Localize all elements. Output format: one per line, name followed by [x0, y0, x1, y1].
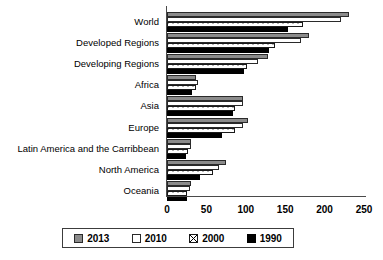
- solid-white-swatch: [132, 234, 141, 243]
- category-label: Europe: [128, 123, 159, 133]
- x-tick-label: 100: [237, 204, 254, 216]
- category-label: World: [134, 17, 159, 27]
- category-label: Africa: [135, 80, 159, 90]
- legend-label: 2013: [87, 233, 109, 244]
- legend-item-2010[interactable]: 2010: [132, 233, 167, 244]
- bar-1990-1: [167, 48, 269, 53]
- chart-legend: 2013201020001990: [62, 228, 294, 248]
- bar-1990-5: [167, 133, 222, 138]
- bar-1990-0: [167, 27, 288, 32]
- legend-item-1990[interactable]: 1990: [247, 233, 282, 244]
- legend-label: 2010: [145, 233, 167, 244]
- plot-area: WorldDeveloped RegionsDeveloping Regions…: [0, 6, 383, 202]
- x-tick-label: 250: [356, 204, 373, 216]
- bar-chart: WorldDeveloped RegionsDeveloping Regions…: [0, 0, 383, 260]
- x-tick-label: 0: [164, 204, 170, 216]
- x-tick-label: 150: [277, 204, 294, 216]
- x-axis-line: [166, 196, 366, 197]
- solid-gray-swatch: [74, 234, 83, 243]
- x-axis-tick-labels: 050100150200250: [0, 204, 383, 218]
- category-label: Latin America and the Carribbean: [17, 144, 159, 154]
- bar-1990-4: [167, 111, 233, 116]
- bar-1990-7: [167, 175, 200, 180]
- category-label: Developed Regions: [76, 38, 159, 48]
- x-tick-label: 50: [201, 204, 212, 216]
- category-label: North America: [99, 165, 159, 175]
- bar-1990-6: [167, 154, 186, 159]
- x-tick-label: 200: [316, 204, 333, 216]
- crosshatch-swatch: [189, 234, 198, 243]
- category-axis-labels: WorldDeveloped RegionsDeveloping Regions…: [0, 6, 163, 196]
- legend-item-2000[interactable]: 2000: [189, 233, 224, 244]
- solid-black-swatch: [247, 234, 256, 243]
- category-label: Asia: [141, 101, 159, 111]
- legend-label: 2000: [202, 233, 224, 244]
- bar-1990-2: [167, 69, 244, 74]
- y-axis-line: [166, 6, 167, 196]
- bars-container: [167, 6, 367, 196]
- bar-1990-3: [167, 90, 192, 95]
- category-label: Oceania: [124, 186, 159, 196]
- legend-label: 1990: [260, 233, 282, 244]
- category-label: Developing Regions: [74, 59, 159, 69]
- legend-item-2013[interactable]: 2013: [74, 233, 109, 244]
